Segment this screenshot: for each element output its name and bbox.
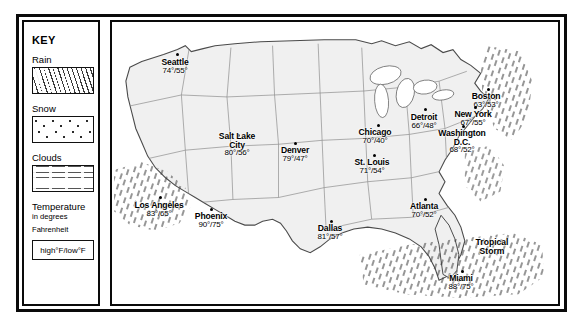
city-label-dallas: Dallas 81°/57° <box>301 224 359 241</box>
city-label-atlanta: Atlanta 70°/52° <box>395 202 453 219</box>
weather-map-figure: KEY Rain Snow Clouds Temperature in degr… <box>0 0 583 326</box>
city-temp-miami: 88°/75° <box>432 283 490 291</box>
city-temp-dallas: 81°/57° <box>301 233 359 241</box>
city-label-washington-dc: Washington D.C. 68°/52° <box>420 129 504 154</box>
city-temp-phoenix: 90°/75° <box>180 221 242 229</box>
legend-temperature-sample-text: high°F/low°F <box>40 246 86 255</box>
legend-temperature-title: Temperature <box>32 202 91 213</box>
tropical-storm-annotation: Tropical Storm <box>464 238 520 256</box>
city-label-boston: Boston 63°/53° <box>457 92 515 109</box>
legend-item-label-snow: Snow <box>32 104 91 114</box>
city-temp-washington-dc: 68°/52° <box>420 146 504 154</box>
city-temp-boston: 63°/53° <box>457 101 515 109</box>
city-temp-denver: 79°/47° <box>264 155 326 163</box>
us-weather-map: Seattle 74°/55° Salt Lake City 80°/56° D… <box>110 20 560 306</box>
city-temp-chicago: 70°/40° <box>343 137 407 145</box>
legend-item-label-clouds: Clouds <box>32 153 91 163</box>
city-label-denver: Denver 79°/47° <box>264 146 326 163</box>
city-temp-st-louis: 71°/54° <box>339 167 405 175</box>
legend-swatch-rain <box>32 67 94 94</box>
city-label-st-louis: St. Louis 71°/54° <box>339 158 405 175</box>
legend-temperature-subtitle-line1: in degrees <box>32 213 91 222</box>
city-label-seattle: Seattle 74°/55° <box>144 58 206 75</box>
legend-swatch-snow <box>32 116 94 143</box>
city-temp-atlanta: 70°/52° <box>395 211 453 219</box>
city-temp-seattle: 74°/55° <box>144 67 206 75</box>
city-label-miami: Miami 88°/75° <box>432 274 490 291</box>
legend-title: KEY <box>32 34 91 46</box>
tropical-storm-line2: Storm <box>464 247 520 256</box>
legend-temperature-sample-box: high°F/low°F <box>32 240 94 260</box>
city-temp-new-york: 67°/55° <box>440 119 506 127</box>
legend-temperature-subtitle-line2: Fahrenheit <box>32 226 91 235</box>
city-label-new-york: New York 67°/55° <box>440 110 506 127</box>
city-label-chicago: Chicago 70°/40° <box>343 128 407 145</box>
legend-item-label-rain: Rain <box>32 55 91 65</box>
map-legend-panel: KEY Rain Snow Clouds Temperature in degr… <box>22 20 100 306</box>
city-label-phoenix: Phoenix 90°/75° <box>180 212 242 229</box>
legend-swatch-clouds <box>32 165 94 192</box>
